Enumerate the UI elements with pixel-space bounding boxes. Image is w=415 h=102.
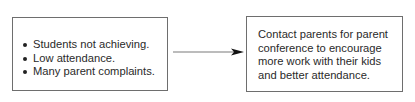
list-item: Low attendance. xyxy=(23,52,155,66)
action-box: Contact parents for parent conference to… xyxy=(246,16,403,92)
list-item: Students not achieving. xyxy=(23,38,155,52)
right-arrow-icon xyxy=(173,47,245,57)
action-text: Contact parents for parent conference to… xyxy=(258,28,400,82)
list-item: Many parent complaints. xyxy=(23,65,155,79)
bullet-icon xyxy=(23,57,27,61)
bullet-icon xyxy=(23,43,27,47)
problems-box: Students not achieving. Low attendance. … xyxy=(12,17,168,91)
problem-list: Students not achieving. Low attendance. … xyxy=(23,38,155,79)
bullet-icon xyxy=(23,70,27,74)
